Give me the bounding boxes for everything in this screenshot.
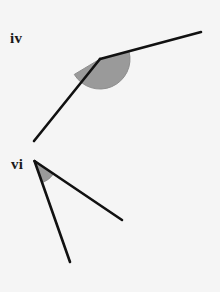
angle-diagram-svg	[0, 0, 220, 292]
angle-label-iv: iv	[10, 31, 22, 46]
figure-background	[0, 0, 220, 292]
angle-figure-canvas: iv vi	[0, 0, 220, 292]
angle-label-vi: vi	[11, 157, 23, 172]
